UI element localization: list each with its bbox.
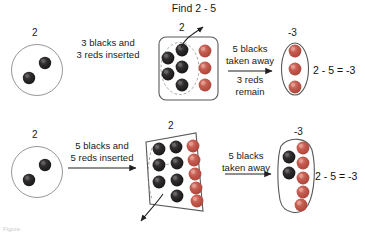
row-one-red-counters [199,45,212,92]
row-one-middle-container [159,37,218,100]
row-one-result-container [282,43,309,95]
figure-caption: Figure [3,226,20,232]
row-one-step-text: 3 blacks and 3 reds inserted [58,37,158,60]
row-one-start-container [12,45,63,96]
row-two-equation: 2 - 5 = -3 [315,170,357,182]
row-two-result-label: -3 [294,126,303,137]
row-two-start-label: 2 [32,129,38,140]
figure-canvas: Find 2 - 5 2 3 blacks and 3 reds inserte… [0,0,365,234]
row-two-result-container [278,139,314,212]
row-one-action-text-above: 5 blacks taken away [222,43,278,66]
row-one-result-label: -3 [288,27,297,38]
row-two-step-text: 5 blacks and 5 reds inserted [52,140,152,163]
row-one-middle-label: 2 [179,22,185,33]
row-two-middle-label: 2 [168,120,174,131]
row-one-start-label: 2 [32,27,38,38]
row-one-action-text-below: 3 reds remain [222,74,278,97]
row-one-equation: 2 - 5 = -3 [313,64,355,76]
row-two-middle-container [146,133,203,211]
figure-title: Find 2 - 5 [148,3,240,15]
diagram-artwork [0,0,365,234]
row-two-action-text-above: 5 blacks taken away [218,150,274,173]
